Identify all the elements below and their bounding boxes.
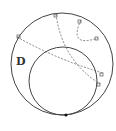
region-label-d: D (16, 55, 26, 68)
geodesic-top-to-right-lower (56, 14, 100, 84)
outer-boundary-circle (11, 13, 113, 115)
tangent-point (64, 113, 67, 116)
geodesic-left-to-right (17, 37, 103, 73)
horocycle-circle (29, 47, 97, 115)
right-angle-marker (100, 73, 103, 76)
